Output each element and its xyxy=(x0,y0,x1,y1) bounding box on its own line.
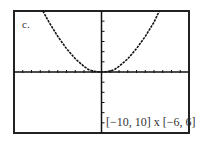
window-range-label: [−10, 10] x [−6, 6] xyxy=(106,115,196,130)
panel-label: c. xyxy=(22,18,30,30)
